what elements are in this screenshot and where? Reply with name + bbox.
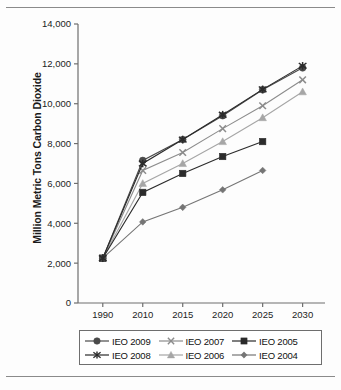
legend-item-ieo-2004[interactable]: IEO 2004: [231, 349, 305, 361]
svg-text:2020: 2020: [212, 309, 233, 320]
bottom-divider-rule: [6, 376, 335, 377]
legend-item-ieo-2005[interactable]: IEO 2005: [231, 335, 305, 347]
legend-label: IEO 2009: [112, 336, 151, 347]
svg-text:2010: 2010: [132, 309, 153, 320]
legend-row: IEO 2009IEO 2007IEO 2005: [84, 334, 317, 348]
svg-text:12,000: 12,000: [42, 58, 71, 69]
legend-item-ieo-2009[interactable]: IEO 2009: [84, 335, 158, 347]
svg-text:2015: 2015: [172, 309, 193, 320]
series-ieo-2008: [99, 62, 306, 262]
legend-label: IEO 2005: [259, 336, 298, 347]
svg-text:2,000: 2,000: [47, 258, 71, 269]
diamond-marker-icon: [231, 349, 257, 361]
legend-item-ieo-2007[interactable]: IEO 2007: [158, 335, 232, 347]
x-axis-ticks: 199020102015202020252030: [92, 303, 313, 320]
legend-label: IEO 2008: [112, 350, 151, 361]
svg-text:8,000: 8,000: [47, 138, 71, 149]
square-marker-icon: [231, 335, 257, 347]
svg-text:2025: 2025: [252, 309, 273, 320]
svg-text:2030: 2030: [292, 309, 313, 320]
series-ieo-2005: [100, 138, 266, 261]
svg-text:14,000: 14,000: [42, 18, 71, 29]
legend-row: IEO 2008IEO 2006IEO 2004: [84, 348, 317, 362]
figure-container: Million Metric Tons Carbon Dioxide 02,00…: [0, 0, 341, 390]
series-ieo-2004: [99, 167, 265, 261]
legend-label: IEO 2004: [259, 350, 298, 361]
y-axis-ticks: 02,0004,0006,0008,00010,00012,00014,000: [42, 18, 78, 308]
plot-area: Million Metric Tons Carbon Dioxide 02,00…: [0, 12, 341, 322]
chart-legend: IEO 2009IEO 2007IEO 2005IEO 2008IEO 2006…: [79, 330, 322, 365]
svg-text:4,000: 4,000: [47, 218, 71, 229]
series-ieo-2006: [99, 88, 306, 261]
circle-marker-icon: [84, 335, 110, 347]
legend-label: IEO 2006: [186, 350, 225, 361]
legend-item-ieo-2006[interactable]: IEO 2006: [158, 349, 232, 361]
line-chart: 02,0004,0006,0008,00010,00012,00014,0001…: [0, 12, 341, 322]
legend-label: IEO 2007: [186, 336, 225, 347]
svg-text:0: 0: [66, 297, 71, 308]
top-divider-rule: [6, 7, 335, 8]
svg-text:10,000: 10,000: [42, 98, 71, 109]
svg-text:6,000: 6,000: [47, 178, 71, 189]
x-marker-icon: [158, 335, 184, 347]
series-ieo-2009: [99, 64, 306, 261]
asterisk-marker-icon: [84, 349, 110, 361]
axes: [78, 24, 325, 303]
triangle-marker-icon: [158, 349, 184, 361]
legend-item-ieo-2008[interactable]: IEO 2008: [84, 349, 158, 361]
svg-text:1990: 1990: [92, 309, 113, 320]
